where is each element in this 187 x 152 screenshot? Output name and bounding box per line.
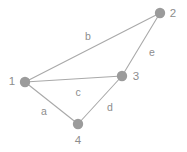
graph-canvas: a b c d e 1 2 3 4 bbox=[0, 0, 187, 152]
node-label-3: 3 bbox=[133, 70, 139, 82]
node-4-dot bbox=[73, 119, 83, 129]
edge-a-1-4 bbox=[25, 82, 78, 124]
edge-label-d: d bbox=[107, 101, 113, 113]
node-1-dot bbox=[20, 77, 30, 87]
node-label-2: 2 bbox=[170, 7, 176, 19]
node-label-4: 4 bbox=[75, 134, 82, 146]
node-3-dot bbox=[117, 71, 127, 81]
edge-c-1-3 bbox=[25, 76, 122, 82]
edge-label-a: a bbox=[41, 105, 47, 117]
edge-d-3-4 bbox=[78, 76, 122, 124]
edge-label-b: b bbox=[85, 30, 91, 42]
graph-diagram: a b c d e 1 2 3 4 bbox=[0, 0, 187, 152]
edge-label-e: e bbox=[149, 46, 155, 58]
edge-label-c: c bbox=[75, 86, 80, 98]
node-2-dot bbox=[155, 8, 165, 18]
node-label-1: 1 bbox=[9, 75, 15, 87]
